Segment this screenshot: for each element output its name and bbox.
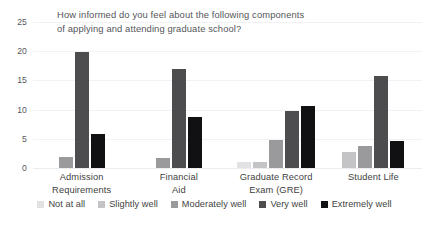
bar	[269, 140, 283, 168]
bar	[172, 69, 186, 168]
chart-legend: Not at allSlightly wellModerately wellVe…	[0, 199, 429, 209]
bar	[374, 76, 388, 168]
legend-swatch-icon	[171, 201, 178, 208]
bar	[188, 117, 202, 168]
legend-swatch-icon	[37, 201, 44, 208]
legend-item[interactable]: Very well	[259, 199, 307, 209]
legend-label: Slightly well	[109, 199, 158, 209]
legend-swatch-icon	[98, 201, 105, 208]
y-tick-label: 20	[0, 46, 27, 56]
legend-item[interactable]: Moderately well	[171, 199, 247, 209]
bar	[156, 158, 170, 169]
bar-groups	[33, 22, 422, 168]
y-tick-label: 25	[0, 17, 27, 27]
bar	[390, 141, 404, 168]
bar-chart: How informed do you feel about the follo…	[0, 0, 429, 226]
y-tick-label: 10	[0, 105, 27, 115]
x-axis-label: Financial Aid	[130, 171, 227, 196]
bar-group	[228, 22, 325, 168]
legend-item[interactable]: Extremely well	[321, 199, 392, 209]
legend-label: Moderately well	[182, 199, 247, 209]
bar	[358, 146, 372, 168]
x-axis-label: Student Life	[325, 171, 422, 184]
bar	[91, 134, 105, 168]
legend-swatch-icon	[321, 201, 328, 208]
legend-item[interactable]: Slightly well	[98, 199, 158, 209]
bar-group	[325, 22, 422, 168]
x-axis-label: Admission Requirements	[33, 171, 130, 196]
legend-item[interactable]: Not at all	[37, 199, 85, 209]
bar-group	[130, 22, 227, 168]
legend-swatch-icon	[259, 201, 266, 208]
y-tick-label: 15	[0, 75, 27, 85]
legend-label: Very well	[270, 199, 307, 209]
bar	[237, 162, 251, 168]
y-tick-label: 0	[0, 163, 27, 173]
bar	[285, 111, 299, 168]
bar	[59, 157, 73, 168]
gridline-0	[33, 168, 422, 169]
y-tick-label: 5	[0, 134, 27, 144]
bar-group	[33, 22, 130, 168]
bar	[253, 162, 267, 168]
bar	[75, 52, 89, 168]
x-axis-label: Graduate Record Exam (GRE)	[228, 171, 325, 196]
bar	[301, 106, 315, 168]
bar	[342, 152, 356, 168]
legend-label: Extremely well	[332, 199, 392, 209]
legend-label: Not at all	[48, 199, 85, 209]
